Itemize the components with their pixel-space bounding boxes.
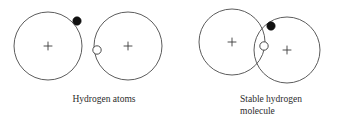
atom-left	[14, 12, 82, 80]
electron-filled-icon	[73, 17, 81, 25]
shared-electron-filled-icon	[267, 22, 275, 30]
hydrogen-atoms-group	[14, 12, 162, 80]
atom-right	[93, 12, 162, 80]
nucleus-plus-icon	[124, 42, 133, 51]
nucleus-plus-icon	[283, 46, 292, 55]
nucleus-plus-icon	[44, 42, 53, 51]
stable-hydrogen-molecule-group	[199, 9, 320, 83]
nucleus-plus-icon	[228, 38, 237, 47]
caption-hydrogen-atoms: Hydrogen atoms	[44, 94, 164, 106]
caption-stable-hydrogen-molecule: Stable hydrogen molecule	[240, 94, 336, 117]
electron-open-icon	[93, 46, 101, 54]
shared-electron-open-icon	[260, 42, 268, 50]
